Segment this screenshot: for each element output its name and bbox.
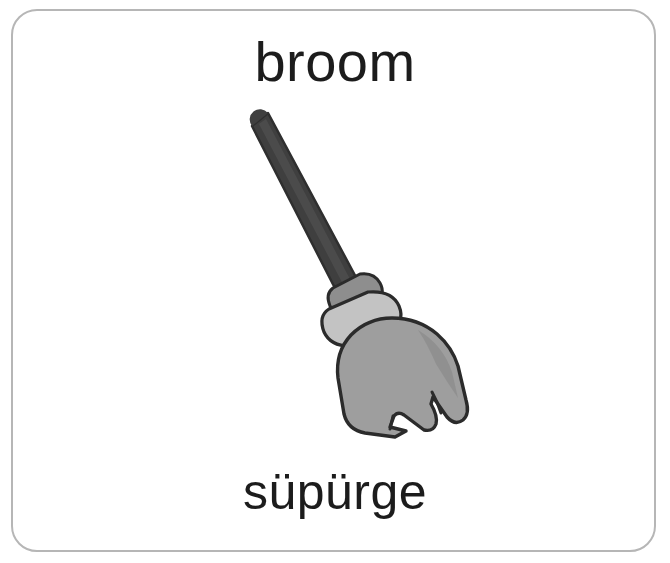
english-word-label: broom: [0, 30, 670, 94]
vocabulary-flashcard: broom süpürge: [0, 0, 670, 563]
turkish-word-label: süpürge: [0, 463, 670, 521]
